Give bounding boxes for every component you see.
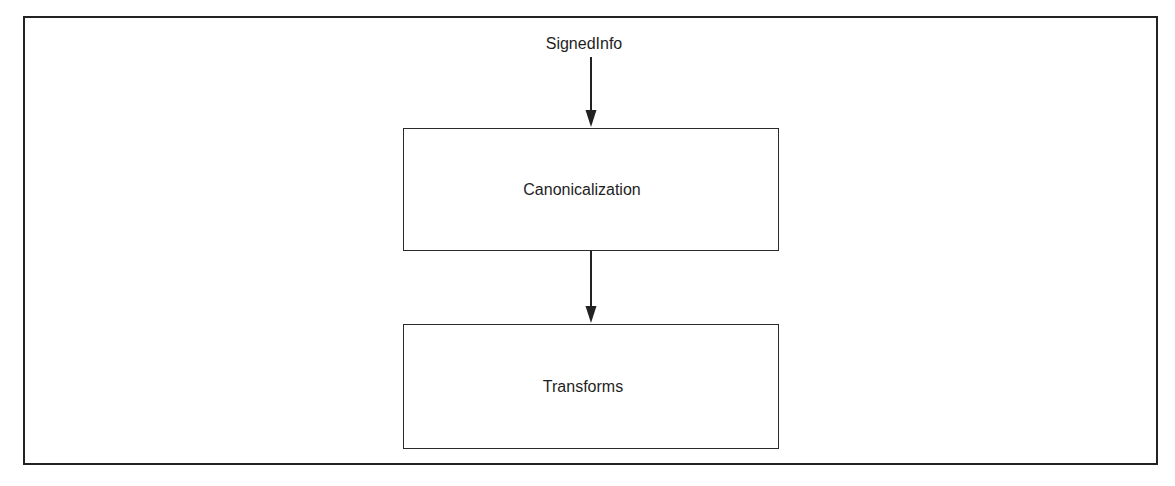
transforms-box: Transforms bbox=[403, 324, 779, 449]
signedinfo-label: SignedInfo bbox=[546, 36, 623, 52]
canonicalization-box: Canonicalization bbox=[403, 128, 779, 251]
transforms-label: Transforms bbox=[543, 379, 623, 395]
canonicalization-label: Canonicalization bbox=[523, 182, 640, 198]
